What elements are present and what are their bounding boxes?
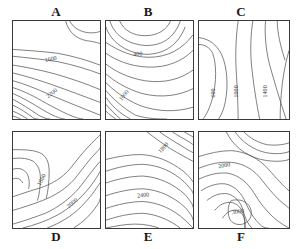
contour-label-c-1400: 1400 bbox=[262, 85, 268, 97]
panel-letter-d: D bbox=[41, 230, 71, 244]
contour-label-e-2400: 2400 bbox=[137, 191, 150, 198]
contour-label-f-2000: 2000 bbox=[218, 161, 231, 169]
svg-text:400: 400 bbox=[133, 51, 142, 58]
panel-d: 1600 2000 bbox=[12, 131, 101, 229]
svg-text:1600: 1600 bbox=[36, 173, 47, 187]
panel-a: 1600 2200 bbox=[12, 20, 101, 120]
panel-letter-c: C bbox=[226, 5, 256, 19]
svg-text:1400: 1400 bbox=[262, 85, 268, 97]
contour-lines-d bbox=[13, 135, 100, 228]
panel-letter-a: A bbox=[41, 5, 71, 19]
contour-label-b-400: 400 bbox=[133, 51, 142, 58]
contour-lines-a bbox=[13, 21, 100, 119]
contour-lines-e bbox=[106, 132, 193, 228]
svg-text:2000: 2000 bbox=[218, 161, 231, 169]
svg-text:1800: 1800 bbox=[157, 141, 170, 154]
svg-text:1000: 1000 bbox=[233, 85, 239, 97]
panel-letter-e: E bbox=[133, 230, 163, 244]
panel-b: 400 1000 bbox=[105, 20, 194, 120]
contour-figure: A B C 1600 2200 bbox=[0, 0, 303, 249]
contour-label-a-1600: 1600 bbox=[44, 55, 57, 63]
contour-label-c-1000: 1000 bbox=[233, 85, 239, 97]
panel-letter-b: B bbox=[133, 5, 163, 19]
svg-text:1600: 1600 bbox=[44, 55, 57, 63]
panel-c: 600 1000 1400 bbox=[198, 20, 290, 120]
svg-text:600: 600 bbox=[210, 88, 216, 97]
contour-label-d-1600: 1600 bbox=[36, 173, 47, 187]
panel-letter-f: F bbox=[226, 230, 256, 244]
contour-label-d-2000: 2000 bbox=[66, 197, 79, 209]
contour-label-e-1800: 1800 bbox=[157, 141, 170, 154]
panel-e: 1800 2400 bbox=[105, 131, 194, 229]
svg-text:2000: 2000 bbox=[66, 197, 79, 209]
contour-label-c-600: 600 bbox=[210, 88, 216, 97]
svg-text:2400: 2400 bbox=[137, 191, 150, 198]
contour-lines-c bbox=[199, 21, 289, 119]
panel-f: 2000 3000 bbox=[198, 131, 290, 229]
contour-lines-b bbox=[106, 21, 193, 119]
